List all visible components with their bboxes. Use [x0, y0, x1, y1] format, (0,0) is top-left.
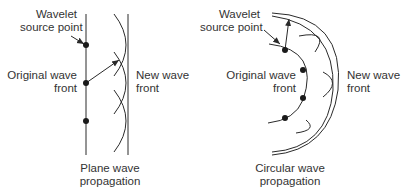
label-line: front — [220, 82, 296, 95]
source-pointer-arrow — [264, 30, 280, 44]
wavelet-arc — [114, 14, 126, 76]
label-line: Original wave — [220, 69, 296, 82]
caption-line: propagation — [70, 175, 150, 188]
wavelet-source-label: Wavelet source point — [200, 8, 260, 34]
label-line: source point — [20, 21, 77, 34]
wavelet-source-dot — [300, 95, 306, 101]
wavelet-arc — [114, 52, 126, 114]
wavelet-source-label: Wavelet source point — [20, 8, 77, 34]
new-wave-front-label: New wave front — [347, 69, 400, 95]
label-line: source point — [200, 21, 260, 34]
plane-wave-caption: Plane wave propagation — [70, 162, 150, 188]
propagation-arrow — [285, 19, 289, 50]
wavelet-source-dot — [282, 115, 288, 121]
source-pointer-arrow — [71, 36, 84, 44]
wavelet-source-dot — [83, 42, 89, 48]
label-line: front — [136, 82, 189, 95]
label-line: New wave — [347, 69, 400, 82]
original-wave-front-label: Original wave front — [5, 69, 77, 95]
wavelet-arc — [299, 35, 320, 52]
wavelet-arc — [296, 120, 310, 133]
wavelet-source-dot — [83, 80, 89, 86]
wavelet-source-dot — [300, 67, 306, 73]
wavelet-arc — [323, 72, 333, 97]
new-wave-front-label: New wave front — [136, 69, 189, 95]
caption-line: propagation — [245, 175, 335, 188]
label-line: Wavelet — [200, 8, 260, 21]
label-line: front — [5, 82, 77, 95]
caption-line: Plane wave — [70, 162, 150, 175]
caption-line: Circular wave — [245, 162, 335, 175]
propagation-arrow — [86, 60, 119, 83]
wavelet-source-dot — [282, 47, 288, 53]
wavelet-arc — [114, 90, 126, 152]
label-line: Original wave — [5, 69, 77, 82]
label-line: front — [347, 82, 400, 95]
label-line: Wavelet — [20, 8, 77, 21]
label-line: New wave — [136, 69, 189, 82]
circular-wave-caption: Circular wave propagation — [245, 162, 335, 188]
original-wave-front-label: Original wave front — [220, 69, 296, 95]
wavelet-source-dot — [83, 118, 89, 124]
